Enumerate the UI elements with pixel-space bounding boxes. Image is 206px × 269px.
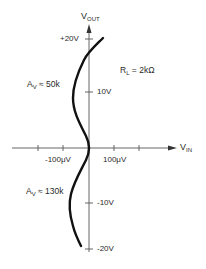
- x-tick-label-minus100: -100μV: [45, 156, 71, 164]
- transfer-characteristic-diagram: [0, 0, 206, 269]
- x-axis-label: VIN: [180, 143, 192, 153]
- gain-upper-sub: V: [33, 84, 37, 90]
- gain-lower-annotation: AV ≈ 130k: [26, 187, 64, 197]
- x-axis-arrow-icon: [168, 146, 177, 151]
- y-axis-label-sub: OUT: [87, 16, 100, 22]
- gain-upper-value: ≈ 50k: [39, 79, 60, 89]
- y-tick-label-10: 10V: [97, 88, 111, 96]
- load-resistance-annotation: RL = 2kΩ: [120, 66, 155, 76]
- gain-upper-annotation: AV ≈ 50k: [27, 80, 60, 90]
- gain-lower-sub: V: [32, 191, 36, 197]
- load-value: = 2kΩ: [132, 65, 155, 75]
- transfer-curve: [70, 38, 103, 246]
- gain-lower-value: ≈ 130k: [38, 186, 63, 196]
- y-tick-label-minus10: -10V: [97, 199, 114, 207]
- y-axis-label: VOUT: [81, 12, 100, 22]
- y-axis-arrow-icon: [87, 24, 92, 33]
- y-tick-label-plus20: +20V: [60, 35, 79, 43]
- y-tick-label-minus20: -20V: [97, 245, 114, 253]
- x-tick-label-100: 100μV: [103, 156, 126, 164]
- x-axis-label-sub: IN: [186, 147, 192, 153]
- load-symbol-sub: L: [126, 70, 129, 76]
